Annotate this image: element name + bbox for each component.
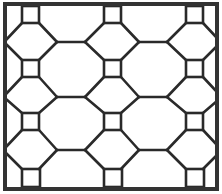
background bbox=[0, 0, 222, 194]
octagon-square-tiling bbox=[0, 0, 222, 194]
tiling-diagram bbox=[0, 0, 222, 194]
